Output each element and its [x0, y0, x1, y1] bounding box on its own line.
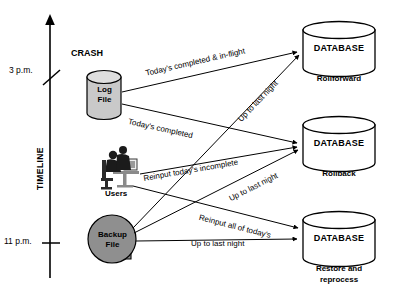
timeline-axis: [42, 14, 60, 278]
time-tick-label-11pm: 11 p.m.: [4, 237, 32, 246]
backup-file-label-line2: File: [90, 241, 135, 249]
db-rollforward-subtitle: Rollforward: [298, 75, 380, 83]
timeline-axis-label: TIMELINE: [36, 147, 45, 190]
db-rollback-title: DATABASE: [303, 139, 375, 148]
users-clipart: [101, 146, 139, 190]
crash-event-label: CRASH: [71, 49, 103, 58]
crash-tick-mark: [43, 70, 60, 85]
db-restore-title: DATABASE: [303, 234, 375, 243]
log-file-label-line2: File: [88, 96, 121, 104]
backup-file-label-line1: Backup: [90, 231, 135, 239]
db-restore-subtitle-line2: reprocess: [292, 276, 386, 284]
recovery-timeline-diagram: 3 p.m. 11 p.m. TIMELINE CRASH Log File U…: [0, 0, 395, 294]
db-restore-subtitle-line1: Restore and: [292, 265, 386, 273]
db-rollforward-title: DATABASE: [303, 44, 375, 53]
db-rollback-subtitle: Rollback: [298, 170, 380, 178]
time-tick-label-3pm: 3 p.m.: [9, 66, 33, 75]
edge-label-backup-to-restore: Up to last night: [191, 240, 244, 248]
users-label: Users: [105, 190, 127, 198]
log-file-label-line1: Log: [88, 86, 121, 94]
